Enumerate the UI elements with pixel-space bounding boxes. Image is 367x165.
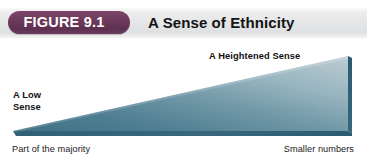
axis-label-left: Part of the majority [12, 144, 90, 154]
label-low-sense-line1: A Low [13, 90, 73, 102]
figure-container: FIGURE 9.1 A Sense of Ethnicity [0, 0, 367, 165]
figure-number-badge: FIGURE 9.1 [8, 11, 130, 34]
wedge-right-edge [348, 56, 352, 133]
axis-label-right: Smaller numbers [284, 144, 354, 154]
label-low-sense-line2: Sense [13, 102, 73, 114]
chart-area: A Heightened Sense A Low Sense Part of t… [0, 38, 367, 165]
wedge-base-strip [13, 131, 352, 136]
figure-title: A Sense of Ethnicity [148, 11, 294, 34]
figure-number-label: FIGURE 9.1 [8, 11, 120, 34]
label-heightened-sense: A Heightened Sense [209, 51, 300, 61]
label-low-sense: A Low Sense [13, 90, 73, 113]
